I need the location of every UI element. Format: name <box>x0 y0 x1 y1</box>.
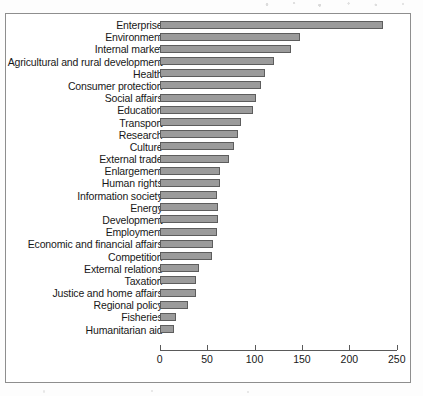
bar <box>160 118 242 126</box>
bar-category-label: Health <box>133 68 162 79</box>
bar-category-label: Fisheries <box>121 312 162 323</box>
bar <box>160 33 300 41</box>
bar-category-label: Enterprise <box>116 20 162 31</box>
bar-row: Agricultural and rural development <box>6 56 412 68</box>
bar-row: Justice and home affairs <box>6 287 412 299</box>
chart-figure: EnterpriseEnvironmentInternal marketAgri… <box>0 0 423 396</box>
bar-category-label: Employment <box>106 227 163 238</box>
bar <box>160 276 196 284</box>
bar <box>160 240 213 248</box>
bar <box>160 106 253 114</box>
bar-category-label: Consumer protection <box>68 80 163 91</box>
x-axis-tick <box>255 345 256 350</box>
bar-category-label: Taxation <box>125 275 163 286</box>
bar <box>160 21 383 29</box>
bar-category-label: Environment <box>105 32 162 43</box>
bar-category-label: Research <box>119 129 163 140</box>
x-axis-tick-label: 0 <box>157 353 163 365</box>
bar <box>160 203 218 211</box>
bar-row: Research <box>6 129 412 141</box>
bar-category-label: Economic and financial affairs <box>28 239 163 250</box>
bar-category-label: Development <box>102 214 162 225</box>
bar-category-label: Education <box>117 105 162 116</box>
bar-row: External relations <box>6 263 412 275</box>
bar <box>160 264 199 272</box>
x-axis-tick <box>160 345 161 350</box>
x-axis-tick <box>397 345 398 350</box>
bar-category-label: Humanitarian aid <box>86 324 163 335</box>
bar-row: Economic and financial affairs <box>6 238 412 250</box>
x-axis-tick-label: 100 <box>246 353 264 365</box>
bar <box>160 191 217 199</box>
bar <box>160 167 221 175</box>
x-axis-tick-label: 200 <box>341 353 359 365</box>
bar-category-label: Regional policy <box>94 300 163 311</box>
bar-category-label: Internal market <box>95 44 163 55</box>
bar-category-label: Culture <box>130 141 163 152</box>
bar-row: Energy <box>6 202 412 214</box>
bar-row: Information society <box>6 190 412 202</box>
plot-area: EnterpriseEnvironmentInternal marketAgri… <box>6 14 412 384</box>
x-axis-line <box>160 350 397 351</box>
bar <box>160 81 261 89</box>
bar-row: Taxation <box>6 275 412 287</box>
bar-row: Consumer protection <box>6 80 412 92</box>
bar <box>160 45 291 53</box>
bar <box>160 325 174 333</box>
bar-row: Health <box>6 68 412 80</box>
x-axis-tick-label: 250 <box>388 353 406 365</box>
bar-row: Competition <box>6 250 412 262</box>
bar-row: Human rights <box>6 177 412 189</box>
bar-row: Internal market <box>6 43 412 55</box>
x-axis-tick-label: 50 <box>201 353 213 365</box>
bar-category-label: Agricultural and rural development <box>8 56 163 67</box>
bar-row: Education <box>6 104 412 116</box>
bar-row: Social affairs <box>6 92 412 104</box>
bar <box>160 215 219 223</box>
x-axis-tick-label: 150 <box>293 353 311 365</box>
bar <box>160 313 176 321</box>
bar-row: Enterprise <box>6 19 412 31</box>
bar <box>160 252 212 260</box>
x-axis-tick <box>207 345 208 350</box>
bar <box>160 228 217 236</box>
bar-category-label: Information society <box>77 190 162 201</box>
scan-artifact-bottom <box>8 389 308 394</box>
bar <box>160 289 196 297</box>
x-axis-tick <box>349 345 350 350</box>
x-axis-tick <box>302 345 303 350</box>
bar <box>160 94 257 102</box>
scan-artifact-top <box>250 1 420 8</box>
bar-row: Fisheries <box>6 311 412 323</box>
bar-row: Regional policy <box>6 299 412 311</box>
bar-category-label: External trade <box>99 154 162 165</box>
bar-row: External trade <box>6 153 412 165</box>
bar-category-label: Transport <box>119 117 162 128</box>
bar-row: Transport <box>6 116 412 128</box>
bar-row: Development <box>6 214 412 226</box>
bar-category-label: Justice and home affairs <box>52 288 162 299</box>
bar <box>160 179 221 187</box>
bar-category-label: Enlargement <box>105 166 163 177</box>
bar <box>160 301 188 309</box>
bar-category-label: Energy <box>130 202 162 213</box>
bar-row: Humanitarian aid <box>6 324 412 336</box>
bar <box>160 142 234 150</box>
bar-category-label: External relations <box>84 263 162 274</box>
bar-row: Enlargement <box>6 165 412 177</box>
bar <box>160 130 239 138</box>
bar-category-label: Human rights <box>102 178 163 189</box>
chart-frame: EnterpriseEnvironmentInternal marketAgri… <box>5 13 411 383</box>
bar-row: Employment <box>6 226 412 238</box>
bar <box>160 57 275 65</box>
bar <box>160 155 229 163</box>
bar <box>160 69 265 77</box>
bar-row: Environment <box>6 31 412 43</box>
bar-category-label: Social affairs <box>105 93 163 104</box>
bar-row: Culture <box>6 141 412 153</box>
bar-category-label: Competition <box>108 251 162 262</box>
